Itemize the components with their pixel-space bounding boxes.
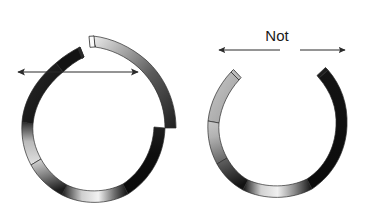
gap-end-face-upper bbox=[89, 36, 95, 47]
not-label: Not bbox=[265, 27, 289, 44]
figure-canvas: Not bbox=[0, 0, 372, 211]
